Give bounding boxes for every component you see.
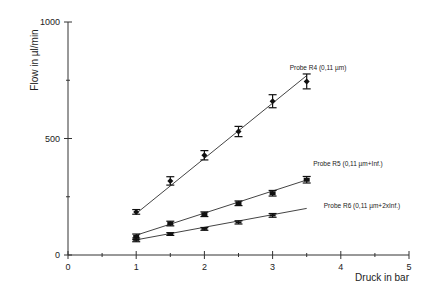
flow-chart: 01234505001000 Flow in µl/min Druck in b… xyxy=(0,0,433,295)
diamond-marker-icon xyxy=(201,152,207,158)
square-marker-icon xyxy=(236,201,242,205)
square-marker-icon xyxy=(304,178,310,182)
y-axis-label: Flow in µl/min xyxy=(29,29,40,90)
fit-line xyxy=(136,180,307,235)
dash-marker-icon xyxy=(167,233,173,235)
diamond-marker-icon xyxy=(270,98,276,104)
x-tick-label: 2 xyxy=(202,262,207,272)
series-group xyxy=(132,74,311,242)
dash-marker-icon xyxy=(133,239,139,241)
x-tick-label: 4 xyxy=(338,262,343,272)
series-label-r4: Probe R4 (0,11 µm) xyxy=(290,64,347,72)
series-r5 xyxy=(132,176,311,239)
y-tick-label: 0 xyxy=(55,250,60,260)
series-r4 xyxy=(132,74,311,215)
series-r6 xyxy=(132,208,307,241)
x-tick-label: 0 xyxy=(65,262,70,272)
axes: 01234505001000 xyxy=(40,17,412,272)
x-tick-label: 5 xyxy=(406,262,411,272)
y-tick-label: 1000 xyxy=(40,17,60,27)
x-axis-label: Druck in bar xyxy=(355,272,410,283)
series-label-r6: Probe R6 (0,11 µm+2xInf.) xyxy=(324,202,400,210)
square-marker-icon xyxy=(167,222,173,226)
x-tick-label: 3 xyxy=(270,262,275,272)
diamond-marker-icon xyxy=(167,178,173,184)
dash-marker-icon xyxy=(270,214,276,216)
fit-line xyxy=(136,208,307,239)
y-tick-label: 500 xyxy=(45,134,60,144)
diamond-marker-icon xyxy=(304,78,310,84)
series-label-r5: Probe R5 (0,11 µm+Inf.) xyxy=(313,160,383,168)
dash-marker-icon xyxy=(236,221,242,223)
dash-marker-icon xyxy=(201,228,207,230)
square-marker-icon xyxy=(270,191,276,195)
fit-line xyxy=(136,76,307,214)
x-tick-label: 1 xyxy=(134,262,139,272)
square-marker-icon xyxy=(201,212,207,216)
